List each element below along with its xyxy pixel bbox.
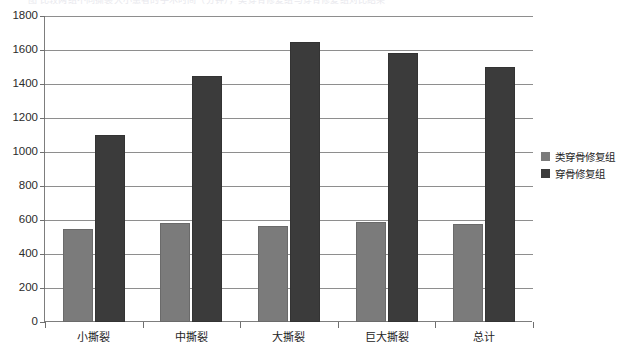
y-tick-label: 600 [4, 214, 38, 225]
bar-group [338, 16, 436, 322]
y-tick-label: 1000 [4, 146, 38, 157]
bar-巨大撕裂-类穿骨修复组[interactable] [356, 222, 386, 322]
y-tick-label: 1200 [4, 112, 38, 123]
x-tick-mark [435, 322, 436, 328]
y-axis: 020040060080010001200140016001800 [0, 16, 38, 322]
x-category-label-小撕裂: 小撕裂 [45, 331, 143, 344]
bar-group [240, 16, 338, 322]
y-tick-label: 400 [4, 248, 38, 259]
legend-item-穿骨修复组[interactable]: 穿骨修复组 [541, 166, 629, 181]
x-category-label-中撕裂: 中撕裂 [143, 331, 241, 344]
bar-总计-穿骨修复组[interactable] [485, 67, 515, 322]
y-tick-label: 1400 [4, 78, 38, 89]
y-tick-label: 0 [4, 316, 38, 327]
legend-swatch-icon [541, 169, 550, 178]
legend-label: 类穿骨修复组 [555, 151, 615, 163]
y-tick-label: 200 [4, 282, 38, 293]
bars-layer [45, 16, 532, 322]
bar-总计-类穿骨修复组[interactable] [453, 224, 483, 322]
x-category-label-总计: 总计 [435, 331, 533, 344]
bar-大撕裂-类穿骨修复组[interactable] [258, 226, 288, 322]
cutoff-caption-text: 图 比较两组不同撕裂大小患者的手术时间（分钟），类穿骨修复组与穿骨修复组对比结果 [28, 0, 624, 6]
x-tick-mark [45, 322, 46, 328]
bar-中撕裂-穿骨修复组[interactable] [192, 76, 222, 323]
legend-swatch-icon [541, 152, 550, 161]
x-axis: 小撕裂中撕裂大撕裂巨大撕裂总计 [45, 322, 532, 352]
x-tick-mark [533, 322, 534, 328]
x-tick-mark [240, 322, 241, 328]
y-tick-label: 1600 [4, 44, 38, 55]
x-category-label-大撕裂: 大撕裂 [240, 331, 338, 344]
legend: 类穿骨修复组穿骨修复组 [541, 149, 629, 183]
legend-item-类穿骨修复组[interactable]: 类穿骨修复组 [541, 149, 629, 164]
bar-group [435, 16, 533, 322]
y-tick-label: 1800 [4, 10, 38, 21]
x-tick-mark [143, 322, 144, 328]
bar-chart: 图 比较两组不同撕裂大小患者的手术时间（分钟），类穿骨修复组与穿骨修复组对比结果… [0, 0, 632, 361]
y-tick-label: 800 [4, 180, 38, 191]
bar-group [45, 16, 143, 322]
bar-小撕裂-类穿骨修复组[interactable] [63, 229, 93, 323]
legend-label: 穿骨修复组 [555, 168, 605, 180]
bar-小撕裂-穿骨修复组[interactable] [95, 135, 125, 322]
bar-group [143, 16, 241, 322]
x-tick-mark [338, 322, 339, 328]
bar-大撕裂-穿骨修复组[interactable] [290, 42, 320, 323]
bar-中撕裂-类穿骨修复组[interactable] [160, 223, 190, 322]
bar-巨大撕裂-穿骨修复组[interactable] [388, 53, 418, 322]
x-category-label-巨大撕裂: 巨大撕裂 [338, 331, 436, 344]
